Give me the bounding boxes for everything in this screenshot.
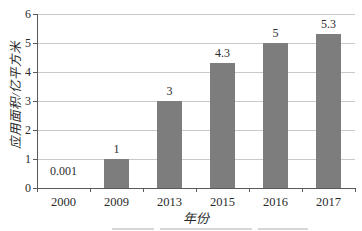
bar-data-label: 4.3 [215,47,230,60]
clipped-caption-remnant [160,228,252,230]
x-tick-label: 2016 [263,195,288,209]
y-tick-label: 5 [0,36,31,50]
y-tick-label: 6 [0,7,31,21]
bar [157,101,182,188]
y-tick-label: 4 [0,65,31,79]
bar-data-label: 3 [167,85,173,98]
y-tick-label: 2 [0,123,31,137]
x-tick-label: 2013 [157,195,182,209]
gridline [37,101,355,102]
bar-data-label: 5.3 [321,18,336,31]
bar-data-label: 1 [114,143,120,156]
gridline [37,130,355,131]
bar-data-label: 5 [273,27,279,40]
x-axis-title: 年份 [183,208,209,227]
bar [263,43,288,188]
gridline [37,43,355,44]
y-tick-label: 0 [0,181,31,195]
bar [210,63,235,188]
y-tick-label: 1 [0,152,31,166]
x-tick-label: 2015 [210,195,235,209]
bar-chart: 应用面积/亿平方米 0123456 0.001134.355.3 2000200… [0,0,362,231]
x-tick-label: 2000 [51,195,76,209]
x-axis-line [37,188,355,189]
x-axis-tick [355,188,356,192]
gridline [37,14,355,15]
x-tick-label: 2017 [316,195,341,209]
gridline [37,159,355,160]
x-tick-label: 2009 [104,195,129,209]
clipped-caption-remnant [112,228,154,230]
y-axis-line [37,14,38,188]
gridline [37,72,355,73]
bar-data-label: 0.001 [50,165,77,178]
y-tick-label: 3 [0,94,31,108]
bar [316,34,341,188]
bar [104,159,129,188]
clipped-caption-remnant [258,228,308,230]
